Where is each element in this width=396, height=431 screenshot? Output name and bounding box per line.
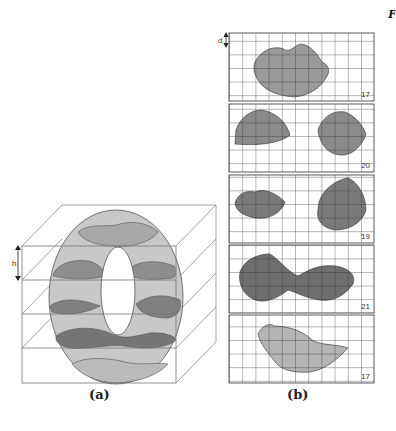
panel-a-diagram: h bbox=[12, 205, 216, 384]
caption-a: (a) bbox=[89, 387, 110, 402]
caption-b: (b) bbox=[287, 387, 308, 402]
slice-panel-4 bbox=[229, 245, 374, 313]
band-2-right bbox=[130, 262, 175, 280]
slice-count-5: 17 bbox=[361, 372, 370, 381]
slice-panel-3 bbox=[229, 175, 374, 243]
h-label: h bbox=[12, 259, 16, 268]
torus-hole bbox=[101, 247, 135, 335]
d-dimension-arrow bbox=[224, 32, 229, 48]
figure-canvas: h bbox=[0, 0, 396, 431]
slice-count-1: 17 bbox=[361, 90, 370, 99]
panel-b-grids: 17 20 19 21 17 d bbox=[218, 32, 374, 383]
torus bbox=[49, 210, 183, 384]
slice-panel-2 bbox=[229, 104, 374, 172]
slice-count-4: 21 bbox=[361, 302, 370, 311]
d-label: d bbox=[218, 36, 222, 45]
slice-count-3: 19 bbox=[361, 232, 370, 241]
slice-panel-1 bbox=[229, 33, 374, 101]
slice-count-2: 20 bbox=[361, 161, 370, 170]
slice-panel-5 bbox=[229, 315, 374, 383]
